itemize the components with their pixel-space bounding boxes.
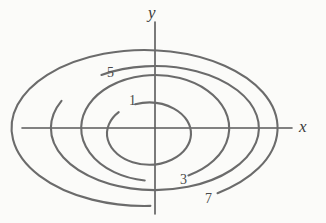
- contour-label-5: 5: [107, 66, 114, 80]
- contour-curve-level-1: [107, 103, 191, 165]
- contour-plot-figure: x y 1 3 5 7: [0, 0, 326, 223]
- contour-label-1: 1: [129, 94, 136, 108]
- contour-plot-canvas: [0, 0, 326, 223]
- x-axis-label: x: [299, 118, 307, 135]
- y-axis-label: y: [148, 4, 156, 21]
- contour-label-7: 7: [205, 192, 212, 206]
- contour-label-3: 3: [180, 173, 187, 187]
